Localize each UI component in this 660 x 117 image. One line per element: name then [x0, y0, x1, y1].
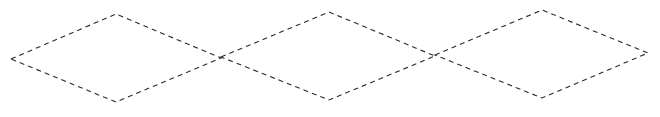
diamond-chain-diagram [0, 0, 660, 117]
